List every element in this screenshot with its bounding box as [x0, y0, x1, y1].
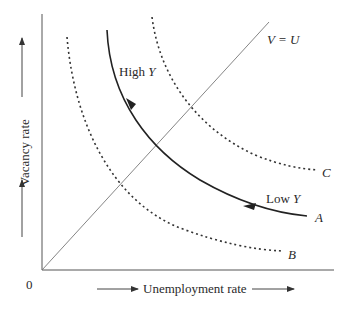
arrow-up-icon — [126, 98, 136, 110]
curve-c-label: C — [322, 165, 331, 180]
origin-label: 0 — [26, 277, 33, 292]
high-y-label: High Y — [119, 64, 157, 79]
x-axis-label: Unemployment rate — [143, 281, 247, 296]
curve-b — [67, 37, 283, 251]
beveridge-diagram: V = U High Y Low Y A B C 0 Unemployment … — [0, 0, 347, 313]
v-equals-u-label: V = U — [267, 32, 301, 47]
low-y-label: Low Y — [266, 191, 302, 206]
v-equals-u-line — [42, 22, 269, 270]
arrow-left-icon — [243, 203, 256, 210]
curve-b-label: B — [288, 247, 296, 262]
y-axis-label: Vacancy rate — [17, 119, 32, 186]
curve-a-label: A — [314, 210, 323, 225]
